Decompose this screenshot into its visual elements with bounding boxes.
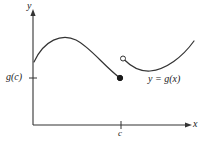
curve-left-branch	[34, 37, 120, 78]
y-axis-label: y	[27, 1, 31, 11]
x-tick-label-c: c	[118, 129, 122, 138]
open-circle-marker	[121, 56, 126, 61]
x-axis-label: x	[193, 119, 197, 129]
filled-dot-marker	[117, 75, 122, 80]
x-axis-arrowhead	[185, 122, 192, 127]
figure-container: y x c g(c) y = g(x)	[0, 0, 203, 145]
curve-right-branch	[125, 41, 194, 71]
y-tick-label-gc: g(c)	[6, 72, 22, 82]
curve-equation-label: y = g(x)	[148, 74, 180, 84]
